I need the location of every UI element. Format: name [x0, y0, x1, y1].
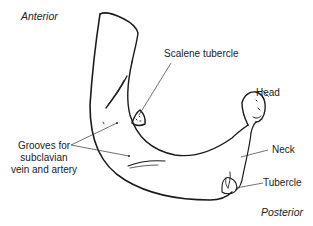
grooves-label-line1: Grooves for [10, 140, 78, 152]
rib-diagram: Anterior Scalene tubercle Head Neck Tube… [0, 0, 313, 226]
scalene-tubercle-mark [132, 110, 145, 125]
rib-outer-edge [90, 14, 232, 200]
posterior-label: Posterior [261, 206, 303, 218]
rib-outline-drawing [0, 0, 313, 226]
tubercle-label: Tubercle [263, 177, 302, 189]
leader-scalene-tubercle [139, 63, 171, 115]
grooves-label-line2: subclavian [10, 152, 78, 164]
rib-neck [236, 133, 251, 190]
scalene-tubercle-label: Scalene tubercle [164, 48, 239, 60]
anterior-label: Anterior [21, 10, 58, 22]
leader-neck [241, 150, 268, 157]
neck-label: Neck [272, 144, 295, 156]
grooves-label-line3: vein and artery [10, 164, 78, 176]
head-label: Head [256, 87, 280, 99]
rib-anterior-end [100, 13, 138, 62]
rib-inner-edge [128, 62, 248, 156]
grooves-label: Grooves for subclavian vein and artery [10, 140, 78, 176]
